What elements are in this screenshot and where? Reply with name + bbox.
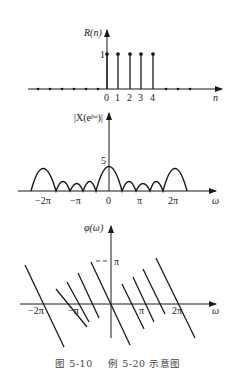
phase-pi-label: π — [114, 256, 119, 267]
rn-one-label: 1 — [100, 49, 105, 60]
example-title: 例 5-20 示意图 — [108, 358, 180, 369]
figure-number: 图 5-10 — [55, 358, 92, 369]
phase-tick-neg2pi: −2π — [28, 305, 44, 316]
mag-tick-0: 0 — [106, 195, 111, 206]
figure-caption: 图 5-10 例 5-20 示意图 — [0, 356, 236, 370]
phase-plot: φ(ω) π −2π −π π 2π ω — [20, 222, 219, 347]
rn-axis-label: R(n) — [83, 27, 102, 39]
mag-tick-neg2pi: −2π — [35, 195, 51, 206]
omega-axis-label-phase: ω — [212, 305, 219, 316]
stem-plot-rn: R(n) 1 0 1 2 3 4 n — [28, 27, 222, 103]
mag-axis-label: |X(ejω)| — [74, 112, 103, 124]
phase-tick-2pi: 2π — [172, 305, 182, 316]
mag-tick-2pi: 2π — [168, 195, 178, 206]
n-tick-0: 0 — [104, 92, 109, 103]
mag-tick-pi: π — [137, 195, 142, 206]
n-tick-4: 4 — [150, 92, 155, 103]
phase-axis-label: φ(ω) — [84, 222, 104, 234]
unit-stems — [106, 53, 154, 89]
magnitude-plot: |X(ejω)| 5 −2π −π 0 π 2π ω — [18, 112, 219, 206]
n-axis-label: n — [213, 92, 218, 103]
omega-axis-label-mag: ω — [212, 195, 219, 206]
phase-tick-pi: π — [139, 305, 144, 316]
n-tick-1: 1 — [115, 92, 120, 103]
figure-canvas: R(n) 1 0 1 2 3 4 n |X(ejω)| 5 −2π −π 0 π… — [0, 0, 236, 392]
mag-tick-negpi: −π — [70, 195, 81, 206]
phase-segments — [25, 258, 195, 347]
n-tick-3: 3 — [138, 92, 143, 103]
n-tick-2: 2 — [127, 92, 132, 103]
phase-tick-negpi: −π — [68, 305, 79, 316]
mag-five-label: 5 — [101, 155, 106, 166]
